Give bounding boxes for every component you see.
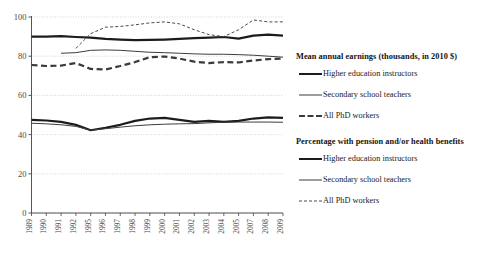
legend-label: Secondary school teachers xyxy=(323,175,411,184)
svg-text:20: 20 xyxy=(18,169,27,179)
data-series-group xyxy=(32,20,284,130)
svg-text:1999: 1999 xyxy=(143,219,152,234)
svg-text:2008: 2008 xyxy=(261,219,270,234)
legend-swatch-line-icon xyxy=(299,69,322,79)
svg-text:1989: 1989 xyxy=(25,219,34,234)
svg-text:2000: 2000 xyxy=(158,219,167,234)
svg-text:40: 40 xyxy=(18,130,27,140)
series-line xyxy=(32,117,284,130)
x-axis-ticks: 1989199019911992199519961997199819992000… xyxy=(25,213,286,234)
svg-text:1992: 1992 xyxy=(69,219,78,234)
svg-text:80: 80 xyxy=(18,51,27,61)
legend-label: Higher education instructors xyxy=(323,154,417,163)
svg-text:100: 100 xyxy=(14,12,27,22)
legend-row: Secondary school teachers xyxy=(296,169,481,190)
legend-swatch-line-icon xyxy=(299,175,322,185)
svg-text:60: 60 xyxy=(18,90,27,100)
svg-text:0: 0 xyxy=(22,208,26,218)
svg-text:2002: 2002 xyxy=(187,219,196,234)
svg-text:1991: 1991 xyxy=(54,219,63,234)
series-line xyxy=(32,35,284,40)
axis-lines xyxy=(32,16,284,213)
svg-text:2001: 2001 xyxy=(172,219,181,234)
legend-label: Higher education instructors xyxy=(323,69,417,78)
svg-text:1997: 1997 xyxy=(113,219,122,234)
svg-text:2004: 2004 xyxy=(217,219,226,234)
legend-swatch-line-icon xyxy=(299,154,322,164)
y-axis-ticks: 020406080100 xyxy=(14,12,32,218)
legend-row: Higher education instructors xyxy=(296,148,481,169)
legend-title-earnings: Mean annual earnings (thousands, in 2010… xyxy=(296,52,481,61)
legend-panel: Mean annual earnings (thousands, in 2010… xyxy=(296,0,481,260)
legend-title-benefits: Percentage with pension and/or health be… xyxy=(296,137,481,146)
svg-text:1990: 1990 xyxy=(39,219,48,234)
series-line xyxy=(32,57,284,70)
legend-row: All PhD workers xyxy=(296,190,481,211)
legend-swatch-dashed-line-icon xyxy=(299,111,322,121)
legend-label: All PhD workers xyxy=(323,111,379,120)
legend-row: All PhD workers xyxy=(296,105,481,126)
chart-figure: 020406080100 198919901991199219951996199… xyxy=(0,0,481,260)
legend-block-benefits: Percentage with pension and/or health be… xyxy=(296,137,481,211)
gridlines xyxy=(32,17,284,213)
legend-row: Higher education instructors xyxy=(296,63,481,84)
legend-swatch-line-icon xyxy=(299,90,322,100)
legend-block-earnings: Mean annual earnings (thousands, in 2010… xyxy=(296,52,481,126)
series-line xyxy=(76,20,283,48)
legend-label: Secondary school teachers xyxy=(323,90,411,99)
chart-plot-panel: 020406080100 198919901991199219951996199… xyxy=(0,0,292,260)
chart-svg: 020406080100 198919901991199219951996199… xyxy=(0,0,292,260)
svg-text:1998: 1998 xyxy=(128,219,137,234)
legend-row: Secondary school teachers xyxy=(296,84,481,105)
legend-label: All PhD workers xyxy=(323,196,379,205)
svg-text:1995: 1995 xyxy=(84,219,93,234)
svg-text:2009: 2009 xyxy=(276,219,285,234)
svg-text:2007: 2007 xyxy=(246,219,255,234)
svg-text:2003: 2003 xyxy=(202,219,211,234)
svg-text:2005: 2005 xyxy=(232,219,241,234)
svg-text:1996: 1996 xyxy=(98,219,107,234)
legend-swatch-dashed-line-icon xyxy=(299,196,322,206)
